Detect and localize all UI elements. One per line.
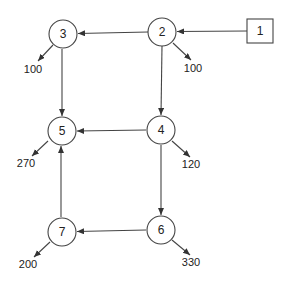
outflow-value-2: 100 [184,62,202,74]
node-2-label: 2 [159,25,166,39]
outflow-value-6: 330 [182,256,200,268]
edge-6-7 [77,230,146,232]
outflow-arrow-2 [173,43,191,60]
outflow-value-5: 270 [17,157,35,169]
edge-2-4 [161,46,162,115]
edge-4-5 [77,130,146,131]
node-7-label: 7 [59,225,66,239]
node-4-label: 4 [158,123,165,137]
outflow-value-7: 200 [19,258,37,270]
node-3-label: 3 [60,27,67,41]
node-1-label: 1 [257,24,264,38]
outflow-arrow-3 [38,45,53,61]
outflow-arrow-5 [32,141,48,156]
node-6-label: 6 [158,223,165,237]
outflow-arrow-6 [172,240,190,255]
outflow-value-4: 120 [182,158,200,170]
network-diagram: 1 2 3 4 5 6 7 100 100 270 120 200 330 [0,0,287,281]
node-5-label: 5 [59,124,66,138]
outflow-value-3: 100 [24,63,42,75]
outflow-arrow-7 [34,242,50,257]
outflow-arrow-4 [172,141,190,157]
edge-2-3 [78,32,148,34]
edge-1-2 [177,31,247,32]
